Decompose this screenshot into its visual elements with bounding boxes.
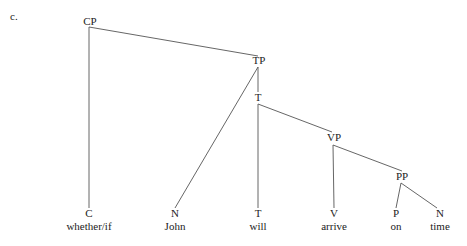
edge-TP-N1 (175, 67, 258, 208)
node-P: P (393, 207, 399, 219)
edge-CP-TP (89, 27, 258, 56)
node-PP: PP (396, 170, 408, 182)
word-john: John (165, 220, 186, 232)
node-N-john: N (171, 207, 179, 219)
node-CP: CP (83, 15, 96, 27)
node-TP: TP (253, 54, 266, 66)
word-whether-if: whether/if (66, 220, 112, 232)
word-arrive: arrive (321, 220, 347, 232)
word-will: will (249, 220, 266, 232)
node-V: V (330, 207, 338, 219)
word-time: time (430, 220, 450, 232)
node-N-time: N (436, 207, 444, 219)
node-VP: VP (327, 131, 341, 143)
node-T-bar: T (255, 91, 262, 103)
edge-PP-N2 (401, 183, 437, 208)
node-C: C (85, 207, 92, 219)
example-label: c. (10, 10, 18, 22)
word-on: on (391, 220, 403, 232)
edge-VP-PP (333, 145, 402, 171)
edge-PP-P (396, 183, 401, 208)
syntax-tree: c. CP TP T VP PP C whether/if N John T w… (0, 0, 467, 246)
node-T: T (255, 207, 262, 219)
edge-Tbar-VP (258, 104, 332, 132)
edge-VP-V (333, 145, 334, 208)
